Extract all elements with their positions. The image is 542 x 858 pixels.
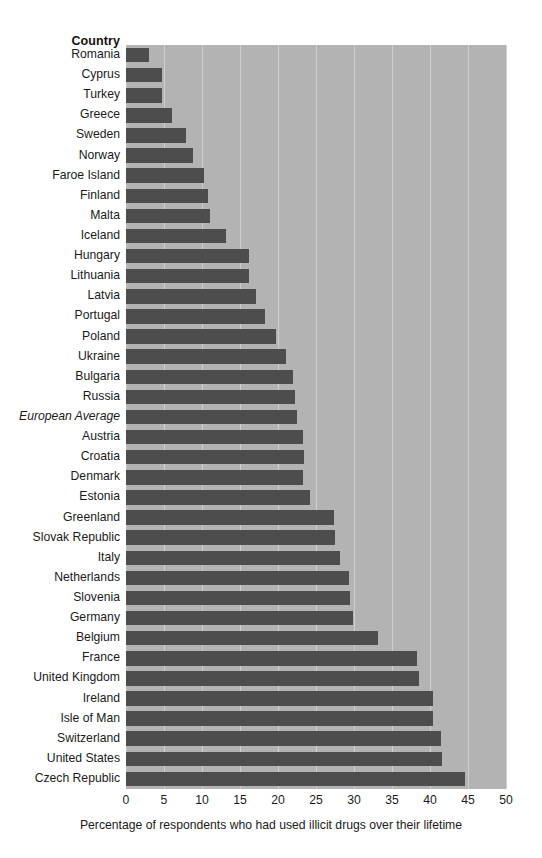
- bar: [126, 530, 335, 544]
- x-tick-label: 10: [195, 793, 209, 807]
- bar: [126, 309, 265, 323]
- category-label: Italy: [0, 551, 120, 563]
- bar: [126, 329, 276, 343]
- category-label: Croatia: [0, 450, 120, 462]
- category-label: European Average: [0, 410, 120, 422]
- category-label: Iceland: [0, 229, 120, 241]
- bar: [126, 229, 226, 243]
- category-label: Ireland: [0, 692, 120, 704]
- x-tick-label: 0: [123, 793, 130, 807]
- bar-row: [126, 490, 506, 504]
- bar-row: [126, 752, 506, 766]
- category-label: Belgium: [0, 631, 120, 643]
- bar-row: [126, 249, 506, 263]
- bar: [126, 189, 208, 203]
- x-tick-label: 45: [461, 793, 475, 807]
- category-label: Hungary: [0, 249, 120, 261]
- bar: [126, 591, 350, 605]
- bar-row: [126, 731, 506, 745]
- bar-row: [126, 571, 506, 585]
- bar-row: [126, 370, 506, 384]
- category-label: Norway: [0, 149, 120, 161]
- bar: [126, 168, 204, 182]
- chart-figure: Country RomaniaCyprusTurkeyGreeceSwedenN…: [0, 0, 542, 858]
- bar-row: [126, 108, 506, 122]
- bar-row: [126, 148, 506, 162]
- category-label: Greenland: [0, 511, 120, 523]
- bar: [126, 370, 293, 384]
- bar: [126, 711, 433, 725]
- bar-row: [126, 530, 506, 544]
- x-tick-label: 20: [271, 793, 285, 807]
- category-label: United Kingdom: [0, 671, 120, 683]
- bar-row: [126, 591, 506, 605]
- bar: [126, 691, 433, 705]
- x-tick-label: 25: [309, 793, 323, 807]
- x-tick-label: 5: [161, 793, 168, 807]
- bar-row: [126, 209, 506, 223]
- bar: [126, 571, 349, 585]
- category-label: Latvia: [0, 289, 120, 301]
- bar: [126, 128, 186, 142]
- category-label: Sweden: [0, 128, 120, 140]
- category-label: Romania: [0, 48, 120, 60]
- bar-row: [126, 510, 506, 524]
- x-axis-title: Percentage of respondents who had used i…: [0, 818, 542, 832]
- bar-row: [126, 450, 506, 464]
- bar-row: [126, 128, 506, 142]
- bar-row: [126, 88, 506, 102]
- bar: [126, 631, 378, 645]
- bar: [126, 269, 249, 283]
- bar: [126, 450, 304, 464]
- bar-row: [126, 651, 506, 665]
- category-axis-labels: RomaniaCyprusTurkeyGreeceSwedenNorwayFar…: [0, 45, 120, 789]
- bar: [126, 68, 162, 82]
- bar-row: [126, 671, 506, 685]
- bar-row: [126, 430, 506, 444]
- bar: [126, 289, 256, 303]
- bar: [126, 390, 295, 404]
- category-label: Ukraine: [0, 350, 120, 362]
- category-label: Portugal: [0, 309, 120, 321]
- bar: [126, 349, 286, 363]
- bar-row: [126, 269, 506, 283]
- bar-row: [126, 349, 506, 363]
- bar-row: [126, 289, 506, 303]
- category-label: Netherlands: [0, 571, 120, 583]
- bar-row: [126, 168, 506, 182]
- x-axis-ticks: 05101520253035404550: [126, 789, 506, 811]
- category-label: Russia: [0, 390, 120, 402]
- bar-row: [126, 229, 506, 243]
- bar-row: [126, 691, 506, 705]
- category-label: Slovenia: [0, 591, 120, 603]
- bar-row: [126, 410, 506, 424]
- bar-series: [126, 45, 506, 789]
- bar: [126, 88, 162, 102]
- category-label: Cyprus: [0, 68, 120, 80]
- category-label: France: [0, 651, 120, 663]
- category-label: Turkey: [0, 88, 120, 100]
- bar: [126, 430, 303, 444]
- category-label: Faroe Island: [0, 169, 120, 181]
- category-label: Greece: [0, 108, 120, 120]
- bar-row: [126, 551, 506, 565]
- category-label: Switzerland: [0, 732, 120, 744]
- category-label: Poland: [0, 330, 120, 342]
- bar: [126, 410, 297, 424]
- category-label: Estonia: [0, 490, 120, 502]
- bar-row: [126, 711, 506, 725]
- category-label: Isle of Man: [0, 712, 120, 724]
- category-label: Austria: [0, 430, 120, 442]
- x-tick-label: 35: [385, 793, 399, 807]
- bar-row: [126, 48, 506, 62]
- bar-row: [126, 329, 506, 343]
- category-label: Bulgaria: [0, 370, 120, 382]
- category-label: Lithuania: [0, 269, 120, 281]
- bar-row: [126, 470, 506, 484]
- bar: [126, 249, 249, 263]
- bar-row: [126, 390, 506, 404]
- bar: [126, 148, 193, 162]
- category-label: Germany: [0, 611, 120, 623]
- plot-area: [126, 45, 506, 789]
- bar: [126, 209, 210, 223]
